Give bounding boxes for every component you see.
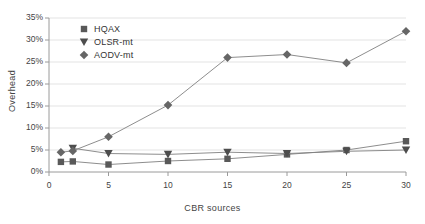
square-marker-icon: [78, 23, 90, 35]
data-point: [164, 101, 173, 110]
y-axis-title: Overhead: [7, 56, 17, 126]
overhead-vs-cbr-sources-chart: 0%5%10%15%20%25%30%35% 051015202530 Over…: [0, 0, 425, 224]
data-point: [69, 147, 78, 156]
data-point: [105, 161, 111, 167]
x-axis-title: CBR sources: [0, 203, 425, 213]
triangle-down-marker-icon: [78, 36, 90, 48]
series-olsr-mt: [69, 145, 411, 159]
legend-item-hqax[interactable]: HQAX: [78, 22, 133, 35]
legend-label: OLSR-mt: [94, 37, 133, 47]
data-point: [70, 158, 76, 164]
data-point: [283, 50, 292, 59]
data-point: [402, 27, 411, 36]
legend-label: HQAX: [94, 24, 120, 34]
data-point: [58, 159, 64, 165]
data-point: [104, 133, 113, 142]
legend-item-olsr-mt[interactable]: OLSR-mt: [78, 35, 133, 48]
legend-label: AODV-mt: [94, 50, 133, 60]
data-point: [342, 59, 351, 68]
diamond-marker-icon: [78, 49, 90, 61]
chart-legend: HQAXOLSR-mtAODV-mt: [78, 22, 133, 61]
data-point: [403, 138, 409, 144]
data-point: [57, 148, 66, 157]
data-point: [223, 53, 232, 62]
legend-item-aodv-mt[interactable]: AODV-mt: [78, 48, 133, 61]
data-point: [224, 156, 230, 162]
plot-area: [0, 0, 425, 224]
data-point: [165, 158, 171, 164]
